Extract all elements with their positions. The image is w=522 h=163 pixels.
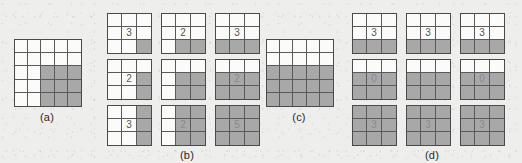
grid-cell (28, 53, 41, 66)
grid-cell (307, 53, 320, 66)
cell-number: 3 (122, 28, 135, 38)
grid-cell (490, 40, 504, 53)
grid-cell (280, 80, 293, 93)
grid-cell (108, 119, 122, 132)
grid-cell (28, 66, 41, 79)
grid-cell (216, 119, 230, 132)
grid-cell (216, 27, 230, 40)
grid-cell (382, 73, 396, 86)
grid-cell (41, 93, 54, 106)
grid-cell (176, 14, 190, 27)
grid-c (266, 39, 334, 107)
grid-cell (280, 93, 293, 106)
grid-cell (490, 132, 504, 145)
grid-cell (367, 40, 381, 53)
grid-cell (353, 60, 367, 73)
figure-canvas: (a) 3 2 3 2 2 3 2 5 (b) (c) 3 3 3 0 0 3 … (0, 0, 522, 163)
grid-cell (421, 86, 435, 99)
grid-cell (267, 66, 280, 79)
grid-cell (307, 40, 320, 53)
grid-cell (382, 14, 396, 27)
grid-cell (490, 27, 504, 40)
grid-cell (28, 93, 41, 106)
grid-cell (367, 60, 381, 73)
grid-cell (293, 93, 306, 106)
grid-cell (108, 106, 122, 119)
grid-cell (475, 132, 489, 145)
grid-d9: 3 (460, 105, 505, 146)
grid-d5 (406, 59, 451, 100)
grid-cell (41, 53, 54, 66)
grid-cell (245, 60, 259, 73)
grid-cell (320, 93, 333, 106)
grid-cell (230, 14, 244, 27)
grid-cell (122, 40, 136, 53)
grid-cell (137, 40, 151, 53)
grid-cell (293, 80, 306, 93)
grid-cell (461, 27, 475, 40)
cell-number: 2 (230, 74, 243, 84)
grid-cell (162, 60, 176, 73)
grid-cell: 3 (475, 119, 489, 132)
grid-cell: 3 (367, 119, 381, 132)
grid-cell (490, 60, 504, 73)
grid-cell (137, 60, 151, 73)
grid-cell (461, 132, 475, 145)
grid-cell (108, 14, 122, 27)
grid-cell (55, 66, 68, 79)
cell-number: 3 (122, 120, 135, 130)
grid-d2: 3 (406, 13, 451, 54)
grid-cell (475, 106, 489, 119)
grid-cell (245, 132, 259, 145)
grid-cell (15, 66, 28, 79)
grid-cell (122, 14, 136, 27)
grid-cell (267, 80, 280, 93)
grid-cell (230, 106, 244, 119)
cell-number: 2 (176, 120, 189, 130)
grid-cell (191, 73, 205, 86)
grid-cell (421, 106, 435, 119)
grid-cell (28, 40, 41, 53)
grid-cell (162, 14, 176, 27)
grid-cell (176, 60, 190, 73)
grid-cell: 2 (176, 119, 190, 132)
grid-cell (490, 14, 504, 27)
grid-cell (41, 66, 54, 79)
grid-b2: 2 (161, 13, 206, 54)
grid-cell (320, 40, 333, 53)
grid-cell (461, 60, 475, 73)
grid-cell (245, 27, 259, 40)
grid-cell: 3 (367, 27, 381, 40)
grid-cell (436, 73, 450, 86)
grid-cell (245, 40, 259, 53)
grid-cell (421, 73, 435, 86)
grid-cell (407, 27, 421, 40)
grid-cell (382, 119, 396, 132)
grid-cell: 3 (475, 27, 489, 40)
grid-cell (307, 66, 320, 79)
grid-cell (353, 132, 367, 145)
grid-cell (436, 86, 450, 99)
grid-cell (245, 86, 259, 99)
grid-cell (382, 132, 396, 145)
grid-cell (475, 14, 489, 27)
grid-cell (490, 86, 504, 99)
grid-cell (230, 40, 244, 53)
grid-cell: 2 (122, 73, 136, 86)
grid-cell (122, 86, 136, 99)
cell-number: 0 (367, 74, 380, 84)
grid-cell (245, 73, 259, 86)
grid-cell (176, 73, 190, 86)
grid-cell (191, 27, 205, 40)
grid-cell (137, 86, 151, 99)
grid-cell (461, 106, 475, 119)
grid-cell (108, 73, 122, 86)
grid-cell (320, 53, 333, 66)
grid-cell (353, 73, 367, 86)
grid-cell (421, 14, 435, 27)
grid-cell (176, 106, 190, 119)
grid-cell (267, 40, 280, 53)
grid-cell (55, 80, 68, 93)
grid-b6: 2 (215, 59, 260, 100)
grid-cell (367, 132, 381, 145)
